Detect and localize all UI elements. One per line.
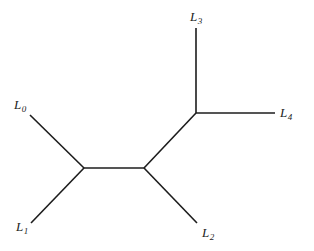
leaf-letter-L0: L [14,97,21,112]
leaf-subscript-L2: 2 [210,232,215,242]
leaf-letter-L4: L [280,105,287,120]
leaf-subscript-L3: 3 [198,16,203,26]
leaf-label-L4: L4 [280,106,292,119]
leaf-letter-L2: L [202,225,209,240]
leaf-subscript-L0: 0 [22,104,27,114]
leaf-subscript-L1: 1 [24,226,29,236]
leaf-subscript-L4: 4 [288,112,293,122]
edge-internal-right [144,113,196,168]
edge-leaf-0 [30,115,84,168]
leaf-label-L2: L2 [202,226,214,239]
leaf-label-L1: L1 [16,220,28,233]
tree-diagram: L0 L1 L2 L3 L4 [0,0,314,251]
leaf-label-L0: L0 [14,98,26,111]
leaf-letter-L1: L [16,219,23,234]
leaf-label-L3: L3 [190,10,202,23]
tree-edges-canvas [0,0,314,251]
edge-leaf-2 [144,168,197,223]
edge-leaf-1 [31,168,84,223]
leaf-letter-L3: L [190,9,197,24]
